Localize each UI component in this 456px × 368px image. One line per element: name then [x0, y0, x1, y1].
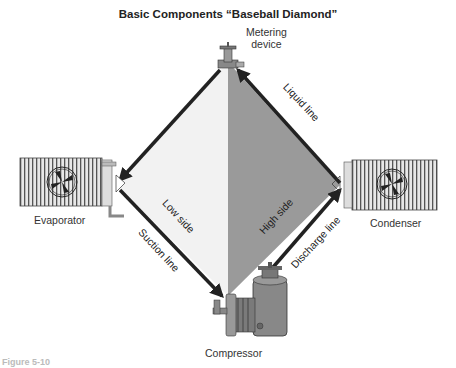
evaporator-icon [20, 158, 125, 216]
figure-caption: Figure 5-10 [2, 357, 50, 367]
metering-device-label: Metering device [246, 26, 287, 50]
evaporator-label: Evaporator [34, 214, 85, 226]
metering-device-icon [218, 42, 244, 68]
high-side-region [228, 62, 340, 296]
diamond-diagram [0, 0, 456, 368]
compressor-label: Compressor [205, 347, 262, 359]
condenser-label: Condenser [370, 217, 421, 229]
condenser-icon [332, 160, 437, 210]
